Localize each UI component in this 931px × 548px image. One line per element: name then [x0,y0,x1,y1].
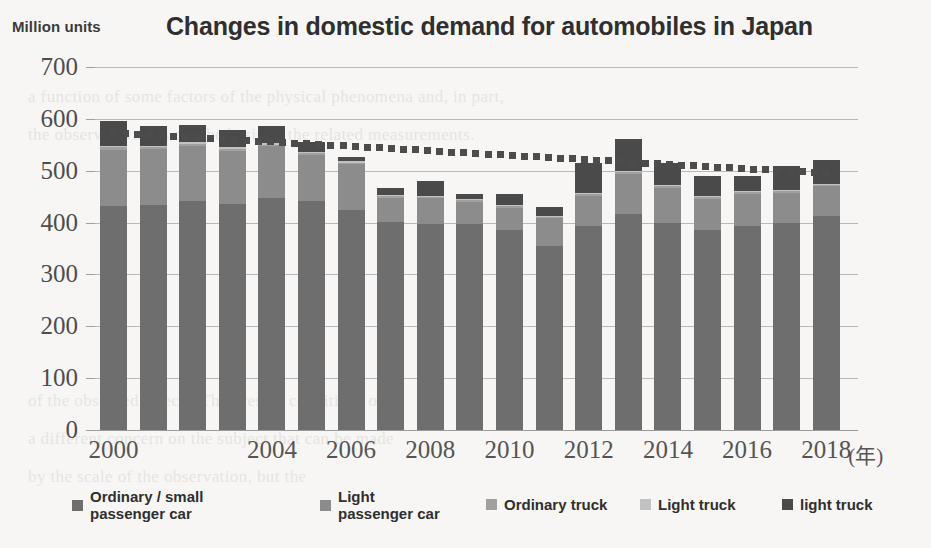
legend-label: light truck [800,496,873,513]
bar-segment [140,149,167,204]
x-axis-labels: 200020042006200820102012201420162018(年) [95,436,931,470]
bar-segment [734,191,761,192]
x-axis-tick-label: 2008 [405,436,455,464]
x-axis-tick-label: 2014 [643,436,693,464]
bar-segment [575,194,602,196]
trendline-dot [400,146,407,153]
x-axis-tick-label: 2004 [247,436,297,464]
bar-segment [575,226,602,430]
bar-segment [417,196,444,197]
trendline-dot [134,131,141,138]
bar-segment [219,204,246,430]
bar-2004 [258,67,285,430]
bar-segment [615,174,642,214]
bar-segment [456,202,483,224]
bar-segment [100,206,127,430]
bar-segment [456,199,483,200]
legend-item[interactable]: Ordinary / small passenger car [72,488,203,522]
bar-segment [694,199,721,231]
y-axis-tick-label: 200 [0,312,78,340]
y-axis-tick-mark [86,119,95,120]
bar-segment [734,226,761,430]
y-axis-tick-label: 100 [0,364,78,392]
trendline-dot [472,150,479,157]
trendline-dot [231,136,238,143]
bar-segment [338,161,365,163]
bar-2014 [654,67,681,430]
bar-2016 [734,67,761,430]
trendline-dot [448,149,455,156]
chart-title: Changes in domestic demand for automobil… [166,12,813,41]
bar-2007 [377,67,404,430]
bar-segment [694,176,721,196]
trendline-dot [315,141,322,148]
y-axis-tick-mark [86,223,95,224]
trendline-dot [364,144,371,151]
bar-segment [417,224,444,430]
bar-segment [179,146,206,201]
trendline-dot [436,148,443,155]
trendline-dot [666,161,673,168]
legend-item[interactable]: Ordinary truck [486,496,607,513]
bar-segment [813,216,840,430]
trendline-dot [726,164,733,171]
bar-segment [734,176,761,191]
bar-segment [734,194,761,227]
bar-segment [219,149,246,151]
bar-segment [536,216,563,217]
bar-2003 [219,67,246,430]
bar-segment [773,190,800,191]
bar-segment [694,197,721,199]
trendline-dot [617,158,624,165]
trendline-dot [714,164,721,171]
trendline-dot [267,138,274,145]
bar-segment [773,191,800,193]
trendline-dot [207,135,214,142]
bar-segment [298,152,325,154]
bar-segment [298,201,325,430]
bar-segment [575,196,602,226]
legend-item[interactable]: light truck [782,496,873,513]
legend-swatch-icon [320,500,331,511]
bar-segment [338,164,365,210]
bar-2012 [575,67,602,430]
bar-segment [377,196,404,198]
bar-segment [100,150,127,207]
bar-segment [496,206,523,208]
y-axis-tick-label: 600 [0,105,78,133]
trendline-dot [303,140,310,147]
y-axis-tick-mark [86,274,95,275]
bar-2018 [813,67,840,430]
bar-segment [417,181,444,196]
bar-segment [377,188,404,195]
legend-label: Ordinary truck [504,496,607,513]
bar-segment [377,198,404,222]
legend-swatch-icon [72,500,83,511]
trendline-dot [774,167,781,174]
bar-segment [417,198,444,223]
y-axis-tick-label: 0 [0,416,78,444]
bar-segment [338,210,365,430]
x-axis-tick-label: 2006 [326,436,376,464]
bar-segment [140,147,167,149]
x-axis-tick-label: 2000 [89,436,139,464]
trendline-dot [605,157,612,164]
bar-segment [773,193,800,223]
bar-segment [456,194,483,199]
trendline-dot [738,165,745,172]
bar-segment [654,185,681,186]
y-axis-tick-marks [86,67,95,430]
bar-segment [179,144,206,146]
trendline-dot [219,136,226,143]
trendline-dot [799,168,806,175]
trendline-dot [654,160,661,167]
bar-segment [219,151,246,204]
legend-item[interactable]: Light passenger car [320,488,440,522]
legend-swatch-icon [782,499,793,510]
legend-item[interactable]: Light truck [640,496,736,513]
trendline-dot [291,140,298,147]
bar-segment [575,163,602,193]
y-axis-tick-mark [86,171,95,172]
trendline-dot [279,139,286,146]
trendline-dot [823,170,830,177]
